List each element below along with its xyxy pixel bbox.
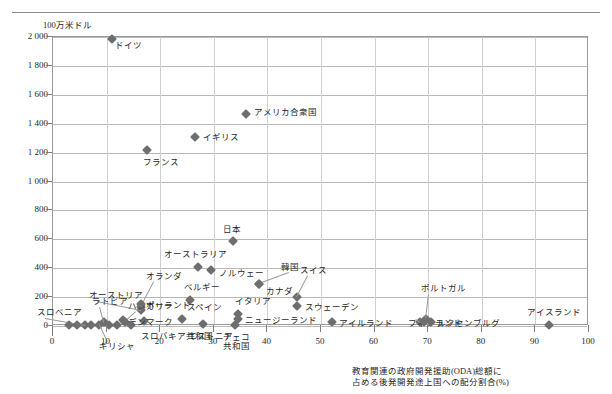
y-axis-tick-mark xyxy=(46,267,52,268)
y-axis-tick-mark xyxy=(46,296,52,297)
data-point-label: カナダ xyxy=(266,287,293,296)
data-point-label: イタリア xyxy=(235,297,271,306)
data-point[interactable] xyxy=(292,301,302,311)
data-point[interactable] xyxy=(142,145,152,155)
y-gridline xyxy=(53,95,587,96)
data-point-label: ニュージーランド xyxy=(245,316,317,325)
data-point-label: スロベニア xyxy=(37,308,82,317)
y-axis-tick-mark xyxy=(46,94,52,95)
y-axis-tick-label: 2 000 xyxy=(28,31,48,41)
data-point-label: ベルギー xyxy=(184,283,220,292)
x-axis-tick-mark xyxy=(213,325,214,332)
x-axis-tick-label: 50 xyxy=(316,336,325,346)
data-point-label: チェコ共和国 xyxy=(223,333,250,351)
data-point-label: スロバキア共和国 xyxy=(141,332,213,341)
data-point-label: オランダ xyxy=(146,272,182,281)
y-gridline xyxy=(53,239,587,240)
y-axis-tick-label: 1 400 xyxy=(28,118,48,128)
data-point-label: イギリス xyxy=(203,133,239,142)
x-axis-tick-mark xyxy=(159,325,160,332)
x-gridline xyxy=(107,37,108,324)
x-axis-tick-mark xyxy=(52,325,53,332)
data-point-label-line: 共和国 xyxy=(223,342,250,351)
x-gridline xyxy=(482,37,483,324)
x-axis-tick-mark xyxy=(374,325,375,332)
y-axis-tick-mark xyxy=(46,36,52,37)
y-gridline xyxy=(53,37,587,38)
data-point-label: アイルランド xyxy=(339,319,393,328)
x-gridline xyxy=(428,37,429,324)
data-point[interactable] xyxy=(72,320,82,330)
x-axis-tick-mark xyxy=(106,325,107,332)
x-axis-tick-mark xyxy=(481,325,482,332)
x-axis-tick-label: 80 xyxy=(476,336,485,346)
y-axis-tick-mark xyxy=(46,123,52,124)
data-point-label: ラトビア xyxy=(92,297,128,306)
data-point-label: アメリカ合衆国 xyxy=(254,108,317,117)
y-axis-tick-label: 1 600 xyxy=(28,89,48,99)
x-axis-tick-mark xyxy=(427,325,428,332)
y-gridline xyxy=(53,153,587,154)
y-gridline xyxy=(53,66,587,67)
y-axis-tick-mark xyxy=(46,65,52,66)
x-axis-tick-mark xyxy=(266,325,267,332)
x-gridline xyxy=(321,37,322,324)
x-axis-tick-label: 10 xyxy=(101,336,110,346)
x-axis-tick-label: 70 xyxy=(423,336,432,346)
x-axis-caption-line-2: 占める後発開発途上国への配分割合(%) xyxy=(352,377,602,388)
x-gridline xyxy=(535,37,536,324)
x-axis-tick-label: 0 xyxy=(50,336,55,346)
x-axis-caption: 教育関連の政府開発援助(ODA)総額に 占める後発開発途上国への配分割合(%) xyxy=(352,366,602,387)
data-point-label: 日本 xyxy=(223,225,241,234)
x-axis-tick-mark xyxy=(320,325,321,332)
data-point[interactable] xyxy=(544,320,554,330)
x-gridline xyxy=(375,37,376,324)
data-point-label: ポルトガル xyxy=(421,284,466,293)
x-axis-tick-label: 40 xyxy=(262,336,271,346)
x-gridline xyxy=(214,37,215,324)
data-point-label: スウェーデン xyxy=(305,303,359,312)
data-point-label: ルクセンブルグ xyxy=(437,319,500,328)
y-axis-tick-mark xyxy=(46,152,52,153)
data-point-label: ノルウェー xyxy=(219,269,264,278)
data-point-label: 韓国 xyxy=(281,263,299,272)
y-axis-tick-label: 1 200 xyxy=(28,147,48,157)
label-leader-line xyxy=(296,276,308,297)
data-point-label: アイスランド xyxy=(527,308,581,317)
data-point[interactable] xyxy=(241,109,251,119)
data-point-label: スイス xyxy=(300,266,327,275)
scatter-plot-area: ドイツアメリカ合衆国イギリスフランス日本オーストラリアノルウェー韓国スイスカナダ… xyxy=(52,36,588,325)
y-axis-unit-label: 100万米ドル xyxy=(43,18,92,30)
y-axis-tick-mark xyxy=(46,238,52,239)
data-point-label: オーストラリア xyxy=(164,250,227,259)
x-axis-tick-label: 60 xyxy=(369,336,378,346)
data-point-label: スペイン xyxy=(187,303,222,312)
x-axis-tick-label: 30 xyxy=(208,336,217,346)
x-axis-tick-mark xyxy=(534,325,535,332)
y-axis-tick-label: 1 000 xyxy=(28,176,48,186)
y-axis-tick-labels: 02004006008001 0001 2001 4001 6001 8002 … xyxy=(0,0,48,394)
y-gridline xyxy=(53,182,587,183)
y-gridline xyxy=(53,210,587,211)
data-point[interactable] xyxy=(228,236,238,246)
x-axis-tick-label: 90 xyxy=(530,336,539,346)
y-axis-tick-mark xyxy=(46,181,52,182)
data-point[interactable] xyxy=(177,315,187,325)
data-point-label: ドイツ xyxy=(115,41,142,50)
y-axis-tick-label: 1 800 xyxy=(28,60,48,70)
data-point[interactable] xyxy=(198,319,208,329)
y-axis-tick-mark xyxy=(46,209,52,210)
header-divider xyxy=(12,12,600,13)
data-point[interactable] xyxy=(193,262,203,272)
x-axis-tick-label: 100 xyxy=(581,336,595,346)
data-point-label: ポーランド xyxy=(146,301,191,310)
x-gridline xyxy=(267,37,268,324)
x-axis-tick-mark xyxy=(588,325,589,332)
x-axis-caption-line-1: 教育関連の政府開発援助(ODA)総額に xyxy=(352,366,602,377)
y-gridline xyxy=(53,124,587,125)
data-point-label: フランス xyxy=(143,158,179,167)
data-point[interactable] xyxy=(190,132,200,142)
x-axis-tick-label: 20 xyxy=(155,336,164,346)
